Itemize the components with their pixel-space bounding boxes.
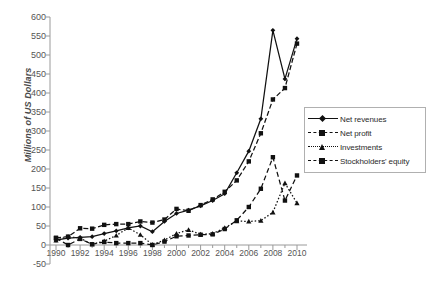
data-point-marker <box>186 209 190 213</box>
data-point-marker <box>271 97 275 101</box>
legend-marker-sample <box>319 158 325 164</box>
data-point-marker <box>114 241 118 245</box>
legend-key-icon <box>308 113 338 125</box>
legend-item-investments[interactable]: Investments <box>308 140 422 154</box>
data-point-marker <box>259 187 263 191</box>
legend-label: Net revenues <box>338 115 386 124</box>
data-point-marker <box>223 190 227 194</box>
chart-legend: Net revenuesNet profitInvestmentsStockho… <box>304 107 426 173</box>
data-point-marker <box>294 201 299 206</box>
legend-key-icon <box>308 141 338 153</box>
data-point-marker <box>90 226 94 230</box>
data-point-marker <box>247 205 251 209</box>
data-point-marker <box>90 234 95 239</box>
data-point-marker <box>114 229 119 234</box>
chart-container: Millions of US Dollars 60055050045040035… <box>0 0 434 290</box>
data-point-marker <box>54 236 58 240</box>
legend-marker-sample <box>319 130 325 136</box>
data-point-marker <box>138 219 142 223</box>
data-point-marker <box>198 203 202 207</box>
data-point-marker <box>66 243 70 247</box>
data-point-marker <box>295 41 299 45</box>
data-point-marker <box>258 116 263 121</box>
data-point-marker <box>295 36 300 41</box>
data-point-marker <box>114 233 119 238</box>
data-point-marker <box>138 232 143 237</box>
data-point-marker <box>210 197 214 201</box>
data-point-marker <box>102 231 107 236</box>
data-point-marker <box>138 224 143 229</box>
legend-label: Net profit <box>338 129 371 138</box>
data-point-marker <box>174 231 179 236</box>
data-point-marker <box>174 207 178 211</box>
data-point-marker <box>102 223 106 227</box>
data-point-marker <box>271 28 276 33</box>
data-point-marker <box>270 210 275 215</box>
data-point-marker <box>138 241 142 245</box>
data-point-marker <box>246 219 251 224</box>
legend-marker-sample <box>319 144 325 150</box>
legend-key-icon <box>308 127 338 139</box>
data-point-marker <box>247 159 251 163</box>
data-point-marker <box>235 178 239 182</box>
data-point-marker <box>282 180 287 185</box>
data-point-marker <box>246 149 251 154</box>
data-point-marker <box>162 217 166 221</box>
data-point-marker <box>126 241 130 245</box>
legend-key-icon <box>308 155 338 167</box>
legend-label: Stockholders' equity <box>338 157 409 166</box>
legend-item-net-revenues[interactable]: Net revenues <box>308 112 422 126</box>
data-point-marker <box>186 227 191 232</box>
legend-item-net-profit[interactable]: Net profit <box>308 126 422 140</box>
data-point-marker <box>66 234 70 238</box>
data-point-marker <box>271 155 275 159</box>
data-point-marker <box>259 131 263 135</box>
data-point-marker <box>283 198 287 202</box>
data-point-marker <box>283 86 287 90</box>
legend-item-stockholders-equity[interactable]: Stockholders' equity <box>308 154 422 168</box>
data-point-marker <box>114 222 118 226</box>
data-point-marker <box>186 233 190 237</box>
data-point-marker <box>78 226 82 230</box>
legend-label: Investments <box>338 143 382 152</box>
legend-marker-sample <box>319 115 326 122</box>
data-point-marker <box>295 173 299 177</box>
data-point-marker <box>126 222 130 226</box>
data-point-marker <box>150 220 154 224</box>
